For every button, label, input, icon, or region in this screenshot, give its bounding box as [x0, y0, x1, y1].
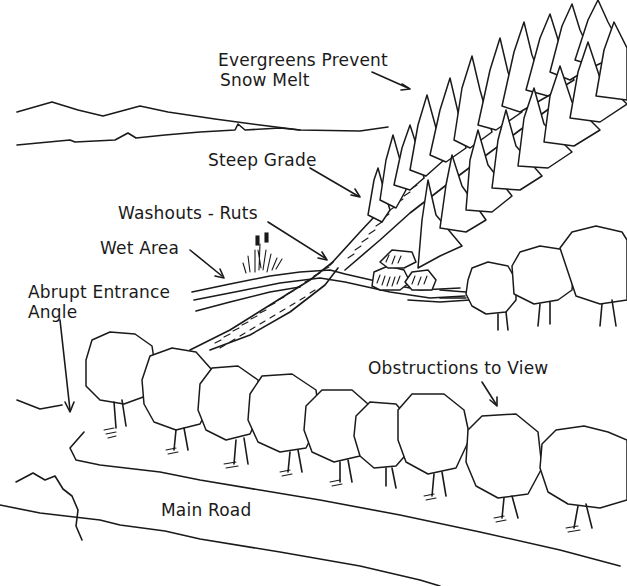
label-washouts: Washouts - Ruts	[118, 203, 258, 223]
label-wet-area: Wet Area	[100, 238, 179, 258]
driveway-problems-diagram: Evergreens Prevent Snow Melt Steep Grade…	[0, 0, 627, 586]
arrow-abrupt-entrance	[60, 320, 70, 410]
label-obstructions: Obstructions to View	[368, 358, 548, 378]
arrow-steep-grade	[310, 168, 358, 196]
label-abrupt-entrance-line2: Angle	[28, 302, 170, 322]
cattails-grass	[243, 233, 282, 273]
label-abrupt-entrance-line1: Abrupt Entrance	[28, 282, 170, 302]
label-main-road: Main Road	[161, 500, 251, 520]
right-deciduous-trees	[440, 226, 627, 330]
label-evergreens: Evergreens Prevent Snow Melt	[218, 50, 388, 90]
arrow-washouts	[268, 222, 325, 258]
distant-hills	[17, 102, 388, 145]
label-abrupt-entrance: Abrupt Entrance Angle	[28, 282, 170, 322]
left-shrub-edge	[16, 473, 82, 540]
arrow-obstructions	[482, 382, 496, 404]
arrow-wet-area	[190, 250, 222, 276]
label-evergreens-line1: Evergreens Prevent	[218, 50, 388, 70]
field-edge	[17, 400, 62, 409]
label-steep-grade: Steep Grade	[208, 150, 317, 170]
label-evergreens-line2: Snow Melt	[220, 70, 388, 90]
